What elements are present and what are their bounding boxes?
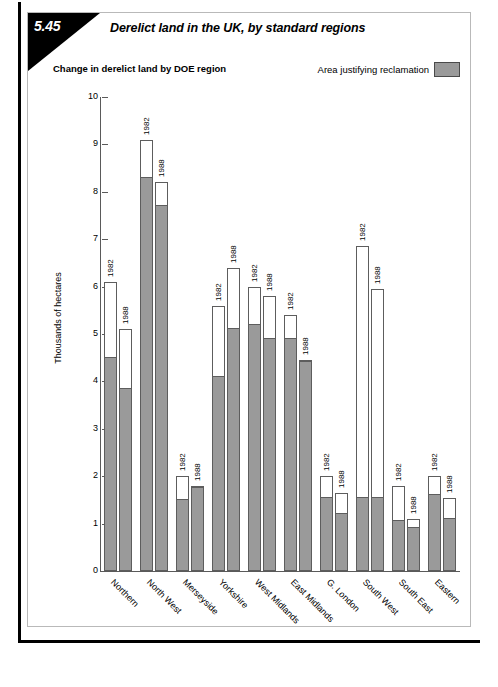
bar-yorkshire-1982: 1982 xyxy=(212,306,226,571)
bar-year-label: 1982 xyxy=(322,453,331,471)
bar-year-label: 1982 xyxy=(142,117,151,135)
x-axis-label-merseyside: Merseyside xyxy=(181,577,221,617)
y-axis-title: Thousands of hectares xyxy=(53,248,63,388)
bar-shaded-portion xyxy=(336,513,348,570)
bar-east-midlands-1988: 1988 xyxy=(299,360,313,571)
bar-shaded-portion xyxy=(393,520,405,570)
x-axis-label-south-west: South West xyxy=(361,577,401,617)
y-tick-label: 10 xyxy=(88,91,98,101)
bar-year-label: 1982 xyxy=(286,292,295,310)
bar-shaded-portion xyxy=(264,338,276,570)
y-tick-label: 1 xyxy=(93,518,98,528)
bar-shaded-portion xyxy=(444,518,456,570)
bar-g-london-1988: 1988 xyxy=(335,493,349,571)
x-axis-label-northern: Northern xyxy=(109,577,141,609)
bar-south-west-1982: 1982 xyxy=(356,246,370,571)
y-tick-label: 9 xyxy=(93,138,98,148)
bar-year-label: 1988 xyxy=(229,245,238,263)
y-tick-label: 7 xyxy=(93,233,98,243)
bar-year-label: 1988 xyxy=(445,475,454,493)
bar-shaded-portion xyxy=(192,487,204,570)
bar-yorkshire-1988: 1988 xyxy=(227,268,241,571)
plot-area: Thousands of hectares 012345678910 19821… xyxy=(28,13,472,628)
bar-shaded-portion xyxy=(105,357,117,570)
x-axis-line xyxy=(100,571,460,572)
bar-west-midlands-1982: 1982 xyxy=(248,287,262,571)
bar-merseyside-1982: 1982 xyxy=(176,476,190,571)
bar-g-london-1982: 1982 xyxy=(320,476,334,571)
bar-shaded-portion xyxy=(429,494,441,570)
bar-shaded-portion xyxy=(372,497,384,570)
bar-south-east-1982: 1982 xyxy=(392,486,406,571)
page-frame-left-rule xyxy=(18,2,21,642)
x-axis-label-yorkshire: Yorkshire xyxy=(217,577,250,610)
x-axis-label-north-west: North West xyxy=(145,577,184,616)
bar-shaded-portion xyxy=(177,499,189,570)
bar-northern-1988: 1988 xyxy=(119,329,133,571)
bar-year-label: 1982 xyxy=(214,283,223,301)
y-tick-label: 8 xyxy=(93,186,98,196)
bar-merseyside-1988: 1988 xyxy=(191,486,205,571)
bar-shaded-portion xyxy=(120,388,132,570)
bar-year-label: 1988 xyxy=(373,266,382,284)
bar-eastern-1982: 1982 xyxy=(428,476,442,571)
bar-year-label: 1982 xyxy=(430,453,439,471)
y-tick-label: 2 xyxy=(93,470,98,480)
x-axis-labels: NorthernNorth WestMerseysideYorkshireWes… xyxy=(100,573,460,633)
x-axis-label-eastern: Eastern xyxy=(433,577,462,606)
bar-south-east-1988: 1988 xyxy=(407,519,421,571)
bar-year-label: 1988 xyxy=(121,306,130,324)
bar-shaded-portion xyxy=(141,177,153,570)
x-axis-label-south-east: South East xyxy=(397,577,435,615)
page-canvas: 5.45 Derelict land in the UK, by standar… xyxy=(0,0,498,687)
bar-shaded-portion xyxy=(321,497,333,570)
bar-year-label: 1982 xyxy=(358,224,367,242)
bar-eastern-1988: 1988 xyxy=(443,498,457,571)
page-frame-bottom-rule xyxy=(18,640,480,643)
bar-northern-1982: 1982 xyxy=(104,282,118,571)
y-tick-label: 4 xyxy=(93,375,98,385)
bar-year-label: 1988 xyxy=(301,337,310,355)
bar-south-west-1988: 1988 xyxy=(371,289,385,571)
bar-year-label: 1988 xyxy=(337,470,346,488)
bar-shaded-portion xyxy=(300,361,312,570)
bar-shaded-portion xyxy=(249,324,261,570)
bar-year-label: 1982 xyxy=(178,453,187,471)
bar-shaded-portion xyxy=(285,338,297,570)
bars-layer: 1982198819821988198219881982198819821988… xyxy=(100,97,460,571)
bar-year-label: 1988 xyxy=(157,160,166,178)
bar-shaded-portion xyxy=(408,527,420,570)
bar-year-label: 1982 xyxy=(394,463,403,481)
bar-north-west-1982: 1982 xyxy=(140,140,154,571)
y-tick-label: 6 xyxy=(93,281,98,291)
bar-west-midlands-1988: 1988 xyxy=(263,296,277,571)
bar-shaded-portion xyxy=(228,328,240,570)
y-tick-label: 0 xyxy=(93,565,98,575)
bar-year-label: 1988 xyxy=(193,463,202,481)
bar-year-label: 1982 xyxy=(250,264,259,282)
bar-shaded-portion xyxy=(357,497,369,570)
figure-container: 5.45 Derelict land in the UK, by standar… xyxy=(27,12,471,627)
bar-shaded-portion xyxy=(213,376,225,570)
bar-year-label: 1982 xyxy=(106,259,115,277)
y-tick-mark xyxy=(102,571,108,572)
bar-year-label: 1988 xyxy=(265,273,274,291)
bar-east-midlands-1982: 1982 xyxy=(284,315,298,571)
bar-north-west-1988: 1988 xyxy=(155,182,169,571)
y-tick-label: 5 xyxy=(93,328,98,338)
y-tick-label: 3 xyxy=(93,423,98,433)
bar-shaded-portion xyxy=(156,205,168,570)
x-axis-label-g-london: G. London xyxy=(325,577,362,614)
bar-year-label: 1988 xyxy=(409,496,418,514)
